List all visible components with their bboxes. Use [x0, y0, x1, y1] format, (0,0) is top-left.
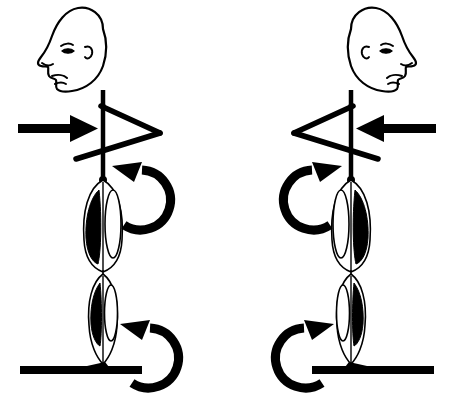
figure-canvas: Stick figure pair showing opposing torqu…: [0, 0, 454, 419]
right-figure-body: [294, 8, 434, 374]
stick-figure-diagram: [0, 0, 454, 419]
left-figure: [18, 8, 179, 388]
right-force-arrow: [356, 115, 436, 142]
right-ankle-torque-arrow: [275, 320, 334, 388]
right-figure: [275, 8, 436, 388]
left-ankle-torque-arrow: [120, 320, 179, 388]
left-figure-body: [20, 8, 160, 374]
left-force-arrow: [18, 115, 98, 142]
